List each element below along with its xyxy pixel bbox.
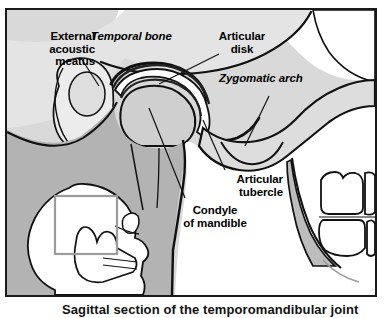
- figure-caption: Sagittal section of the temporomandibula…: [0, 303, 384, 318]
- lower-molar-1: [319, 220, 365, 256]
- upper-molar-1: [321, 172, 363, 214]
- label-condyle-of-mandible: Condyle of mandible: [155, 204, 275, 229]
- label-external-acoustic-meatus: External acoustic meatus: [9, 30, 95, 68]
- figure-caption-text: Sagittal section of the temporomandibula…: [62, 303, 384, 317]
- external-acoustic-meatus-opening: [69, 72, 105, 116]
- label-zygomatic-arch: Zygomatic arch: [219, 72, 341, 85]
- figure-page: External acoustic meatus Temporal bone A…: [0, 0, 384, 318]
- label-articular-disk: Articular disk: [203, 30, 281, 55]
- lower-molar-2: [367, 220, 375, 256]
- upper-molar-2: [365, 172, 375, 214]
- label-temporal-bone: Temporal bone: [91, 30, 209, 43]
- figure-frame: External acoustic meatus Temporal bone A…: [5, 8, 377, 297]
- label-articular-tubercle: Articular tubercle: [191, 173, 283, 198]
